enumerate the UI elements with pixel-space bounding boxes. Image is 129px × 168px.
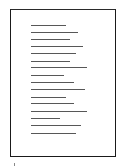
text-line [31,103,74,104]
text-line [31,97,66,98]
text-line [31,39,70,40]
text-line [31,118,60,119]
text-line [31,32,78,33]
page-marker [14,163,15,166]
text-line [31,75,64,76]
text-line [31,46,83,47]
text-line [31,25,66,26]
text-line [31,82,74,83]
text-line [31,133,76,134]
text-line [31,67,87,68]
text-line [31,53,76,54]
text-line [31,89,85,90]
text-line [31,61,70,62]
text-line [31,111,87,112]
text-line [31,125,81,126]
